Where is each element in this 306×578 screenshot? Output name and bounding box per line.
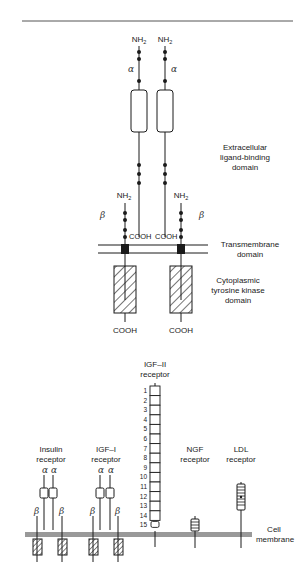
transmembrane-domain-label: Transmembrane domain — [221, 240, 280, 259]
alpha2-cooh-label: COOH — [155, 232, 178, 241]
alpha-disulfide-dots — [137, 50, 167, 83]
svg-text:β: β — [89, 506, 95, 516]
cytoplasmic-domain-label: Cytoplasmic tyrosine kinase domain — [211, 276, 265, 305]
alpha-label-left: α — [128, 64, 134, 74]
igf2-repeat-box — [150, 492, 160, 502]
insulin-receptor-icon: Insulin receptor α α β β — [33, 445, 67, 562]
beta-label-left: β — [99, 210, 105, 220]
igf2-repeat-number: 8 — [143, 454, 147, 461]
beta-label-right: β — [198, 210, 204, 220]
igf2-repeat-box — [150, 453, 160, 463]
svg-text:α: α — [42, 465, 48, 475]
igf2-repeat-number: 6 — [143, 435, 147, 442]
igf2-repeat-box — [150, 463, 160, 473]
svg-text:domain: domain — [237, 250, 263, 259]
igf2-repeat-box — [150, 396, 160, 406]
beta1-transmembrane-block — [121, 244, 129, 254]
igf2-repeat-number: 2 — [143, 397, 147, 404]
igf2-repeat-box — [150, 386, 160, 396]
svg-text:β: β — [58, 506, 64, 516]
svg-text:Insulin: Insulin — [39, 445, 62, 454]
svg-text:α: α — [51, 465, 57, 475]
alpha1-cysteine-rich-box — [131, 90, 147, 132]
alpha2-cysteine-rich-box — [157, 90, 173, 132]
alpha1-nh2-label: NH2 — [132, 35, 147, 45]
svg-text:tyrosine kinase: tyrosine kinase — [211, 286, 265, 295]
igf2-repeat-number: 10 — [140, 473, 148, 480]
igf2-repeat-box — [150, 511, 160, 521]
igf2-repeat-box — [150, 424, 160, 434]
igf2-receptor-icon: IGF–II receptor 123456789101112131415 — [140, 360, 170, 547]
igf2-repeat-number: 9 — [143, 464, 147, 471]
igf2-repeat-number: 1 — [143, 387, 147, 394]
cell-membrane-label-1: Cell — [267, 525, 281, 534]
svg-text:α: α — [108, 465, 114, 475]
svg-text:domain: domain — [232, 163, 258, 172]
beta2-cooh-label: COOH — [169, 326, 193, 335]
igf2-repeat-box — [150, 501, 160, 511]
beta2-nh2-label: NH2 — [174, 191, 189, 201]
igf2-repeat-number: 14 — [140, 512, 148, 519]
alpha2-nh2-label: NH2 — [158, 35, 173, 45]
svg-text:domain: domain — [225, 296, 251, 305]
igf2-repeat-number: 11 — [140, 483, 147, 490]
igf2-repeat-number: 12 — [140, 493, 148, 500]
alpha1-cooh-label: COOH — [129, 232, 152, 241]
igf2-repeat-box — [150, 434, 160, 444]
extracellular-domain-label: Extracellular ligand-binding domain — [220, 143, 270, 172]
igf2-repeat-number: 5 — [143, 425, 147, 432]
igf2-repeat-number: 15 — [140, 521, 148, 528]
insulin-receptor-detail: NH2 NH2 α α NH2 NH2 β β — [98, 35, 280, 335]
svg-text:receptor: receptor — [140, 370, 170, 379]
svg-text:IGF–I: IGF–I — [96, 445, 116, 454]
svg-text:Cytoplasmic: Cytoplasmic — [216, 276, 260, 285]
igf2-repeat-box — [150, 482, 160, 492]
igf2-repeat-box — [150, 415, 160, 425]
igf2-repeat-number: 13 — [140, 502, 148, 509]
svg-text:α: α — [98, 465, 104, 475]
igf2-repeat-number: 7 — [143, 445, 147, 452]
receptor-diagram: NH2 NH2 α α NH2 NH2 β β — [0, 0, 306, 578]
igf2-repeat-box — [150, 444, 160, 454]
beta2-transmembrane-block — [177, 244, 185, 254]
igf2-repeat-box — [151, 521, 159, 527]
svg-text:β: β — [114, 506, 120, 516]
svg-text:Transmembrane: Transmembrane — [221, 240, 280, 249]
svg-text:LDL: LDL — [234, 445, 249, 454]
igf2-repeat-number: 4 — [143, 416, 147, 423]
igf2-repeat-box — [150, 472, 160, 482]
svg-text:receptor: receptor — [226, 455, 256, 464]
alpha-label-right: α — [171, 64, 177, 74]
receptor-family-comparison: Cell membrane Insulin receptor α α β β I… — [25, 360, 295, 562]
svg-text:receptor: receptor — [91, 455, 121, 464]
igf2-repeat-number: 3 — [143, 406, 147, 413]
cell-membrane-label-2: membrane — [256, 535, 295, 544]
beta1-cooh-label: COOH — [113, 326, 137, 335]
svg-text:receptor: receptor — [180, 455, 210, 464]
beta1-kinase-domain — [114, 266, 136, 313]
svg-text:Extracellular: Extracellular — [223, 143, 267, 152]
svg-text:receptor: receptor — [36, 455, 66, 464]
svg-text:IGF–II: IGF–II — [144, 360, 166, 369]
igf2-repeat-box — [150, 405, 160, 415]
svg-text:NGF: NGF — [187, 445, 204, 454]
beta1-nh2-label: NH2 — [117, 191, 132, 201]
beta2-kinase-domain — [170, 266, 192, 313]
svg-text:ligand-binding: ligand-binding — [220, 153, 270, 162]
svg-text:β: β — [33, 506, 39, 516]
igf1-receptor-icon: IGF–I receptor α α β β — [89, 445, 123, 562]
